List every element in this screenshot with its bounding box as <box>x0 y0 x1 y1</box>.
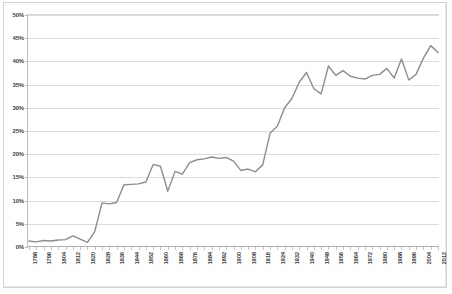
x-axis-tick <box>124 247 125 250</box>
y-axis-label: 50% <box>13 12 24 18</box>
x-axis-tick <box>29 247 30 250</box>
y-axis-label: 15% <box>13 174 24 180</box>
x-axis-tick <box>102 247 103 250</box>
y-axis-label: 40% <box>13 58 24 64</box>
x-axis-tick <box>168 247 169 250</box>
x-axis-tick <box>263 247 264 250</box>
x-axis-tick <box>73 247 74 250</box>
chart-screenshot: U.S. Popular Vote for President as Perce… <box>0 0 452 294</box>
x-axis-tick <box>87 247 88 250</box>
x-axis-tick <box>182 247 183 250</box>
x-axis-tick <box>248 247 249 250</box>
x-axis-tick <box>58 247 59 250</box>
x-axis-tick <box>431 247 432 250</box>
x-axis-tick <box>285 247 286 250</box>
x-axis-tick <box>307 247 308 250</box>
x-axis-label: 1812 <box>75 252 81 265</box>
y-axis-label: 0% <box>16 244 24 250</box>
x-axis-tick <box>131 247 132 250</box>
x-axis-label: 1892 <box>221 252 227 265</box>
x-axis-label: 1852 <box>148 252 154 265</box>
x-axis-label: 1836 <box>119 252 125 265</box>
x-axis-label: 1796 <box>46 252 52 265</box>
x-axis-tick <box>416 247 417 250</box>
x-axis-tick <box>277 247 278 250</box>
x-axis-label: 1924 <box>280 252 286 265</box>
y-axis-label: 25% <box>13 128 24 134</box>
x-axis-tick <box>219 247 220 250</box>
x-axis-label: 1988 <box>397 252 403 265</box>
x-axis-tick <box>95 247 96 250</box>
x-axis-label: 1876 <box>192 252 198 265</box>
x-axis-label: 1900 <box>236 252 242 265</box>
x-axis-tick <box>394 247 395 250</box>
x-axis-tick <box>226 247 227 250</box>
y-axis-label: 20% <box>13 151 24 157</box>
x-axis-tick <box>146 247 147 250</box>
x-axis-tick <box>234 247 235 250</box>
x-axis-tick <box>197 247 198 250</box>
x-axis-label: 2004 <box>426 252 432 265</box>
chart-canvas: U.S. Popular Vote for President as Perce… <box>0 0 452 294</box>
y-axis-label: 35% <box>13 82 24 88</box>
x-axis-label: 2012 <box>441 252 447 265</box>
x-axis-label: 1932 <box>294 252 300 265</box>
x-axis-label: 1788 <box>32 252 38 265</box>
x-axis-tick <box>255 247 256 250</box>
x-axis-tick <box>80 247 81 250</box>
x-axis-label: 1884 <box>207 252 213 265</box>
x-axis-tick <box>387 247 388 250</box>
x-axis-tick <box>372 247 373 250</box>
x-axis-tick <box>380 247 381 250</box>
x-axis-tick <box>365 247 366 250</box>
x-axis-label: 1908 <box>251 252 257 265</box>
x-axis-label: 1868 <box>178 252 184 265</box>
x-axis-tick <box>51 247 52 250</box>
x-axis-label: 1828 <box>105 252 111 265</box>
data-series-layer <box>28 15 439 247</box>
x-axis-tick <box>175 247 176 250</box>
y-axis-label: 30% <box>13 105 24 111</box>
x-axis-tick <box>241 247 242 250</box>
x-axis-tick <box>336 247 337 250</box>
x-axis-label: 1964 <box>353 252 359 265</box>
y-axis-label: 45% <box>13 35 24 41</box>
x-axis-tick <box>409 247 410 250</box>
x-axis-tick <box>401 247 402 250</box>
x-axis-label: 1820 <box>90 252 96 265</box>
x-axis-label: 1972 <box>367 252 373 265</box>
x-axis-tick <box>328 247 329 250</box>
y-axis-label: 10% <box>13 198 24 204</box>
x-axis-tick <box>343 247 344 250</box>
x-axis-tick <box>423 247 424 250</box>
x-axis-tick <box>44 247 45 250</box>
popular-vote-line <box>29 46 438 243</box>
x-axis-tick <box>321 247 322 250</box>
x-axis-tick <box>292 247 293 250</box>
x-axis-tick <box>139 247 140 250</box>
y-axis-tick <box>25 247 28 248</box>
x-axis-tick <box>350 247 351 250</box>
x-axis-tick <box>314 247 315 250</box>
x-axis-label: 1996 <box>411 252 417 265</box>
x-axis-tick <box>299 247 300 250</box>
x-axis-tick <box>117 247 118 250</box>
plot-area: 0%5%10%15%20%25%30%35%40%45%50%178817961… <box>27 14 439 247</box>
x-axis-tick <box>438 247 439 250</box>
x-axis-tick <box>204 247 205 250</box>
x-axis-tick <box>109 247 110 250</box>
x-axis-label: 1844 <box>134 252 140 265</box>
x-axis-tick <box>66 247 67 250</box>
x-axis-label: 1980 <box>382 252 388 265</box>
x-axis-tick <box>36 247 37 250</box>
x-axis-tick <box>270 247 271 250</box>
x-axis-label: 1916 <box>265 252 271 265</box>
x-axis-tick <box>160 247 161 250</box>
x-axis-label: 1948 <box>324 252 330 265</box>
x-axis-label: 1956 <box>338 252 344 265</box>
x-axis-tick <box>358 247 359 250</box>
x-axis-label: 1860 <box>163 252 169 265</box>
y-axis-label: 5% <box>16 221 24 227</box>
x-axis-tick <box>190 247 191 250</box>
x-axis-tick <box>212 247 213 250</box>
